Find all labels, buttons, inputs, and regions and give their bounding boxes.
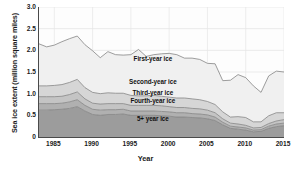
area-bands <box>39 36 284 137</box>
x-tick-label: 2010 <box>230 140 260 147</box>
band-label: Third-year ice <box>133 89 174 96</box>
x-tick-label: 2015 <box>268 140 291 147</box>
band-label: First-year ice <box>134 55 173 62</box>
sea-ice-extent-chart: Sea ice extent (million square miles) 00… <box>0 0 291 169</box>
y-tick-label: 1.0 <box>14 91 36 97</box>
x-tick-label: 1995 <box>115 140 145 147</box>
x-tick-label: 1985 <box>38 140 68 147</box>
band-label: Fourth-year ice <box>130 97 175 104</box>
band-label: 5+ year ice <box>137 115 169 122</box>
y-tick-label: 1.5 <box>14 69 36 75</box>
y-tick-label: 2.5 <box>14 26 36 32</box>
x-tick-label: 1990 <box>77 140 107 147</box>
x-axis-tick-labels: 1985199019952000200520102015 <box>0 140 291 152</box>
x-tick-label: 2000 <box>153 140 183 147</box>
band-label: Second-year ice <box>129 78 177 85</box>
y-tick-label: 0.5 <box>14 112 36 118</box>
y-tick-label: 2.0 <box>14 47 36 53</box>
y-tick-label: 3.0 <box>14 4 36 10</box>
x-axis-title: Year <box>0 154 291 163</box>
x-tick-label: 2005 <box>191 140 221 147</box>
